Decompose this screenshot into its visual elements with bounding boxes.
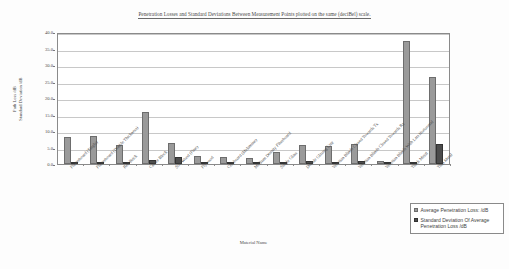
x-tick-label: Plasterboard (Double Thickness) xyxy=(95,166,99,170)
y-tick-mark xyxy=(53,132,55,133)
x-axis-labels: Plasterboard (Single)Plasterboard (Doubl… xyxy=(57,166,450,236)
y-tick-label: 30.0 xyxy=(45,64,53,69)
x-tick-label: Thin Metal xyxy=(436,166,440,170)
x-tick-label: Venetian Blinds With Lats Horizontal xyxy=(384,166,388,170)
x-tick-mark xyxy=(450,164,451,166)
bar-group xyxy=(188,34,214,164)
bar-average-penetration-loss xyxy=(246,158,253,164)
chart-legend: Average Penetration Loss: /dB Standard D… xyxy=(410,203,504,234)
x-tick-label: Red Brick xyxy=(122,166,126,170)
chart-title: Penetration Losses and Standard Deviatio… xyxy=(0,11,509,17)
bar-average-penetration-loss xyxy=(168,143,175,164)
legend-label-average: Average Penetration Loss: /dB xyxy=(421,207,489,213)
y-tick-mark xyxy=(53,149,55,150)
bar-average-penetration-loss xyxy=(142,112,149,164)
y-tick-mark xyxy=(53,116,55,117)
x-tick-mark xyxy=(83,164,84,166)
x-tick-label: Chipboard (Melamine) xyxy=(226,166,230,170)
bar-group xyxy=(423,34,449,164)
y-tick-mark xyxy=(53,50,55,51)
x-tick-label: Single Glass xyxy=(279,166,283,170)
x-tick-mark xyxy=(188,164,189,166)
legend-swatch-icon-stddev xyxy=(414,218,418,222)
x-tick-mark xyxy=(214,164,215,166)
y-tick-mark xyxy=(53,66,55,67)
x-tick-label: Soft Wood (Pine) xyxy=(174,166,178,170)
legend-item-standard-deviation: Standard Deviation Of Average Penetratio… xyxy=(414,217,500,229)
y-tick-mark xyxy=(53,33,55,34)
bar-group xyxy=(136,34,162,164)
bar-average-penetration-loss xyxy=(273,152,280,164)
x-tick-mark xyxy=(345,164,346,166)
bar-group xyxy=(162,34,188,164)
y-tick-label: 20.0 xyxy=(45,97,53,102)
legend-item-average-penetration-loss: Average Penetration Loss: /dB xyxy=(414,207,500,213)
x-axis-title: Material Name xyxy=(57,240,450,245)
bar-group xyxy=(214,34,240,164)
y-tick-label: 10.0 xyxy=(45,130,53,135)
x-tick-mark xyxy=(109,164,110,166)
x-tick-mark xyxy=(162,164,163,166)
chart-title-text: Penetration Losses and Standard Deviatio… xyxy=(138,11,370,19)
y-axis-title: Path Loss /dB Standard Deviation /dB xyxy=(8,33,28,165)
x-tick-label: Plywood xyxy=(200,166,204,170)
y-tick-label: 15.0 xyxy=(45,113,53,118)
y-tick-mark xyxy=(53,165,55,166)
x-tick-mark xyxy=(319,164,320,166)
bar-average-penetration-loss xyxy=(377,161,384,164)
x-tick-mark xyxy=(136,164,137,166)
bar-average-penetration-loss xyxy=(64,137,71,164)
x-tick-mark xyxy=(293,164,294,166)
y-tick-label: 35.0 xyxy=(45,47,53,52)
x-tick-label: Double Glazing Unit xyxy=(305,166,309,170)
bar-group xyxy=(58,34,84,164)
bar-average-penetration-loss xyxy=(194,156,201,164)
x-tick-label: Plasterboard (Single) xyxy=(69,166,73,170)
bar-average-penetration-loss xyxy=(299,145,306,164)
legend-swatch-icon-average xyxy=(414,208,418,212)
y-tick-mark xyxy=(53,99,55,100)
x-tick-mark xyxy=(424,164,425,166)
x-tick-mark xyxy=(371,164,372,166)
x-tick-label: Venetian Blinds Closed Towards Tx xyxy=(331,166,335,170)
chart-page: Penetration Losses and Standard Deviatio… xyxy=(0,0,509,269)
x-tick-label: Medium Density Fibreboard xyxy=(253,166,257,170)
bar-group xyxy=(293,34,319,164)
x-tick-mark xyxy=(240,164,241,166)
x-tick-mark xyxy=(267,164,268,166)
x-tick-label: Cinder Block xyxy=(148,166,152,170)
y-tick-label: 40.0 xyxy=(45,31,53,36)
y-axis-title-line2: Standard Deviation /dB xyxy=(18,77,24,120)
y-tick-mark xyxy=(53,83,55,84)
x-tick-label: Thick Metal xyxy=(410,166,414,170)
bar-average-penetration-loss xyxy=(220,157,227,164)
y-tick-label: 25.0 xyxy=(45,80,53,85)
x-tick-label: Venetian Blinds Closed Towards Rx xyxy=(357,166,361,170)
x-tick-mark xyxy=(398,164,399,166)
y-axis-ticks: 0.05.010.015.020.025.030.035.040.0 xyxy=(30,33,55,165)
legend-label-stddev: Standard Deviation Of Average Penetratio… xyxy=(421,217,501,229)
